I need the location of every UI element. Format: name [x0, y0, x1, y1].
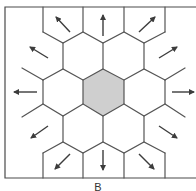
panel-label: B — [0, 181, 196, 191]
arrow-up-right-top — [139, 17, 155, 32]
center-hexagon — [83, 69, 124, 116]
arrow-up-left — [30, 47, 48, 58]
arrow-up-left-top — [56, 17, 70, 32]
hexagon-expansion-diagram — [0, 0, 196, 191]
arrow-up-right — [159, 47, 177, 58]
arrow-down-right-bottom — [139, 154, 154, 169]
arrow-down-left-bottom — [55, 154, 70, 169]
arrow-down-right — [159, 126, 177, 138]
arrow-down-left — [31, 126, 48, 138]
